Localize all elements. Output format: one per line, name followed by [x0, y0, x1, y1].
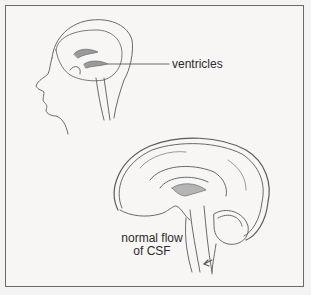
csf-flow-label-line2: of CSF [112, 245, 192, 258]
ventricles-label: ventricles [172, 58, 223, 71]
head-profile-icon [36, 20, 133, 134]
csf-flow-label: normal flow of CSF [112, 232, 192, 258]
